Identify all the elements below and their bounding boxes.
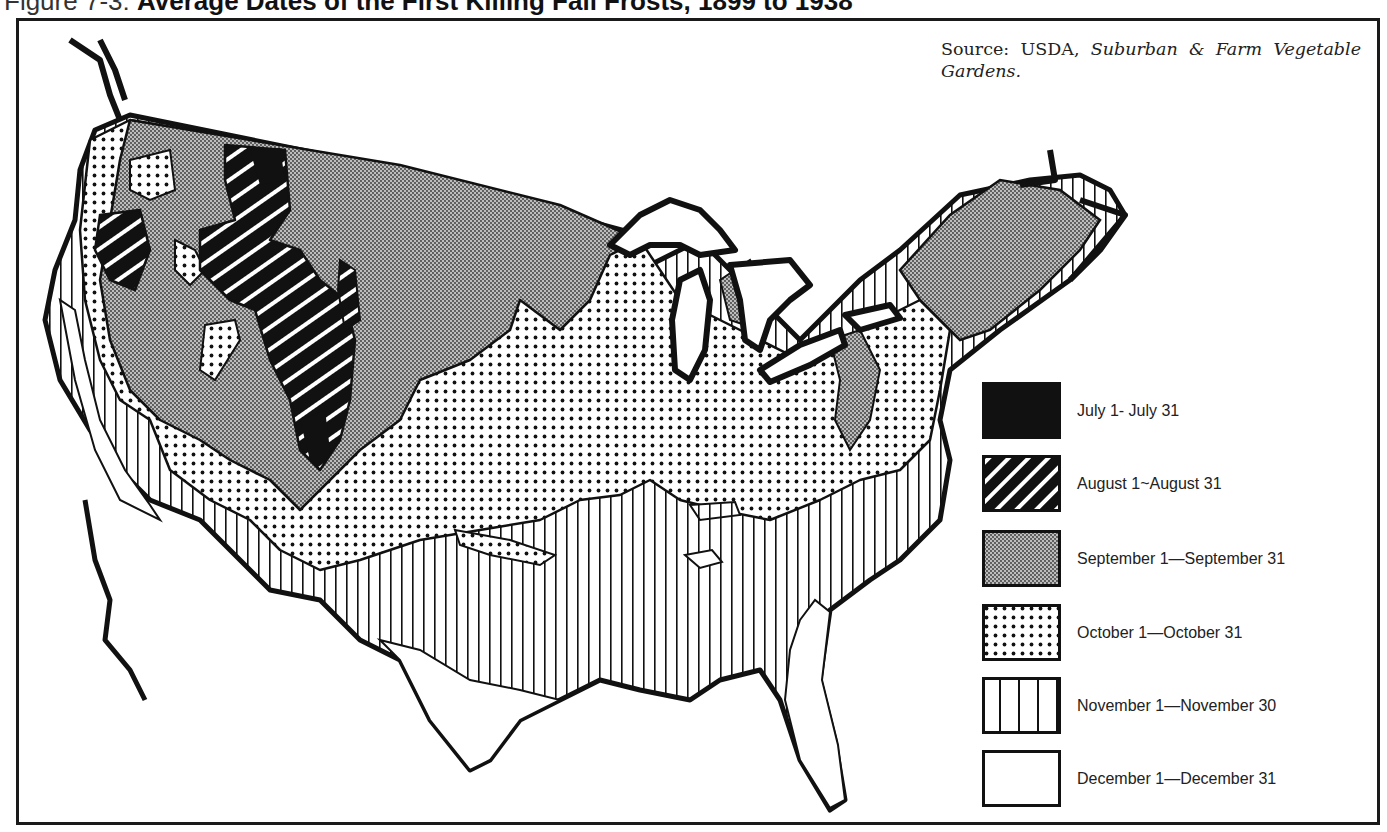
legend-label: September 1—September 31 <box>1077 550 1285 568</box>
source-label: Source: USDA, <box>941 39 1079 59</box>
legend-label: December 1—December 31 <box>1077 770 1276 788</box>
legend-item-july: July 1- July 31 <box>982 382 1362 440</box>
source-citation: Source: USDA, Suburban & Farm Vegetable … <box>941 38 1361 82</box>
swatch-solid-black <box>982 382 1061 439</box>
legend-item-august: August 1~August 31 <box>982 455 1362 513</box>
legend-label: August 1~August 31 <box>1077 475 1222 493</box>
legend-label: November 1—November 30 <box>1077 697 1276 715</box>
baja-coastline <box>85 500 145 700</box>
swatch-vertical-lines <box>982 677 1061 734</box>
legend-item-november: November 1—November 30 <box>982 677 1362 735</box>
legend-item-october: October 1—October 31 <box>982 604 1362 662</box>
legend-label: October 1—October 31 <box>1077 624 1242 642</box>
swatch-diagonal-stripes <box>982 455 1061 512</box>
puget-sound <box>70 40 125 120</box>
swatch-blank <box>982 750 1061 807</box>
legend-label: July 1- July 31 <box>1077 402 1179 420</box>
lake-superior <box>610 200 735 255</box>
legend-item-december: December 1—December 31 <box>982 750 1362 808</box>
legend-item-september: September 1—September 31 <box>982 530 1362 588</box>
swatch-fine-dots <box>982 530 1061 587</box>
zone-october-nw-island <box>130 150 175 200</box>
swatch-coarse-dots <box>982 604 1061 661</box>
